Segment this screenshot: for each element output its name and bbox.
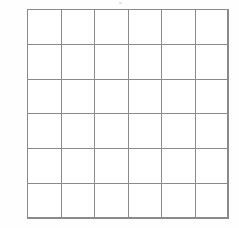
scan-speck [119,2,122,4]
grid-cell[interactable] [95,10,129,45]
grid-cell[interactable] [28,10,62,45]
grid-cell[interactable] [28,44,62,79]
table-row [28,79,229,114]
grid-cell[interactable] [195,79,229,114]
grid-cell[interactable] [61,184,95,219]
grid-cell[interactable] [128,10,162,45]
grid-cell[interactable] [162,79,196,114]
grid-cell[interactable] [128,149,162,184]
grid-cell[interactable] [162,10,196,45]
grid-cell[interactable] [61,79,95,114]
table-row [28,114,229,149]
grid-cell[interactable] [162,114,196,149]
grid-cell[interactable] [128,114,162,149]
grid-cell[interactable] [28,184,62,219]
grid-cell[interactable] [128,44,162,79]
grid-figure [0,0,239,228]
grid-cell[interactable] [162,184,196,219]
grid-cell[interactable] [95,149,129,184]
grid-cell[interactable] [128,184,162,219]
grid-cell[interactable] [95,184,129,219]
grid-cell[interactable] [162,149,196,184]
blank-grid-table [27,9,229,219]
grid-cell[interactable] [95,114,129,149]
grid-cell[interactable] [128,79,162,114]
grid-cell[interactable] [61,44,95,79]
grid-cell[interactable] [195,10,229,45]
grid-cell[interactable] [61,10,95,45]
grid-cell[interactable] [95,79,129,114]
grid-cell[interactable] [28,114,62,149]
grid-body [28,10,229,219]
grid-cell[interactable] [28,149,62,184]
grid-cell[interactable] [195,184,229,219]
grid-cell[interactable] [95,44,129,79]
table-row [28,10,229,45]
table-row [28,184,229,219]
grid-cell[interactable] [61,149,95,184]
grid-cell[interactable] [195,44,229,79]
table-row [28,149,229,184]
grid-cell[interactable] [195,114,229,149]
grid-cell[interactable] [61,114,95,149]
table-row [28,44,229,79]
grid-cell[interactable] [195,149,229,184]
grid-cell[interactable] [162,44,196,79]
grid-cell[interactable] [28,79,62,114]
